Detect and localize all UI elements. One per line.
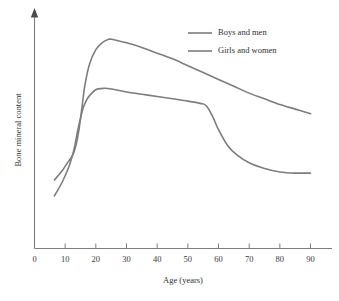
- x-tick-label-30: 30: [122, 254, 131, 264]
- x-tick-label-20: 20: [92, 254, 101, 264]
- chart-canvas: 0102030405060708090 Age (years) Bone min…: [0, 0, 339, 301]
- series-group: [54, 39, 310, 196]
- y-axis: [31, 8, 38, 249]
- x-tick-label-50: 50: [184, 254, 193, 264]
- x-tick-label-10: 10: [61, 254, 70, 264]
- legend-label-0: Boys and men: [218, 27, 267, 37]
- x-axis-title: Age (years): [163, 275, 203, 285]
- legend-label-1: Girls and women: [218, 45, 277, 55]
- x-axis-tick-labels: 0102030405060708090: [32, 254, 314, 264]
- x-tick-label-60: 60: [214, 254, 223, 264]
- x-axis: 0102030405060708090: [32, 244, 332, 264]
- x-tick-label-90: 90: [306, 254, 315, 264]
- chart-legend: Boys and menGirls and women: [188, 27, 277, 55]
- series-line-boys-and-men: [54, 39, 310, 180]
- x-tick-label-40: 40: [153, 254, 162, 264]
- x-tick-label-80: 80: [276, 254, 285, 264]
- x-tick-label-70: 70: [245, 254, 254, 264]
- x-tick-label-0: 0: [32, 254, 36, 264]
- bone-mineral-content-chart: 0102030405060708090 Age (years) Bone min…: [0, 0, 339, 301]
- x-axis-ticks: [65, 244, 310, 249]
- y-axis-title: Bone mineral content: [13, 93, 23, 167]
- series-line-girls-and-women: [54, 88, 310, 196]
